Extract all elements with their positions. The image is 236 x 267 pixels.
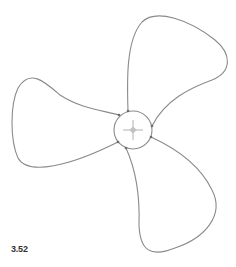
anchor-node — [127, 110, 130, 113]
figure-number: 3.52 — [11, 244, 28, 254]
propeller-diagram — [0, 0, 236, 267]
anchor-node — [118, 114, 121, 117]
blade-top — [128, 16, 228, 126]
anchor-node — [117, 141, 120, 144]
anchor-node — [151, 125, 154, 128]
blade-bottom — [126, 137, 216, 252]
anchor-node — [125, 147, 128, 150]
blade-left — [12, 78, 119, 167]
anchor-node — [150, 136, 153, 139]
